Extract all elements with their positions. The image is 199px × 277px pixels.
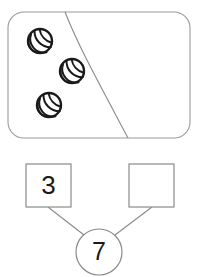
- marble-1: [28, 29, 52, 53]
- marble-2: [60, 59, 84, 83]
- part-box-right[interactable]: [129, 164, 174, 207]
- connector-right: [115, 207, 152, 235]
- worksheet-page: 3 7: [0, 0, 199, 277]
- marble-3: [37, 93, 61, 117]
- part-box-left-value: 3: [41, 170, 55, 200]
- total-circle-value: 7: [92, 237, 106, 265]
- number-bond: 3 7: [26, 164, 174, 275]
- worksheet-canvas: 3 7: [0, 0, 199, 277]
- connector-left: [48, 207, 84, 235]
- marble-group-panel: [8, 12, 190, 138]
